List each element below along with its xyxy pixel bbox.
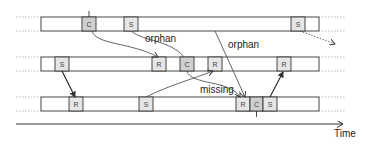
time-axis: Time <box>16 124 356 139</box>
svg-text:C: C <box>254 101 259 108</box>
send-box: S <box>55 57 69 71</box>
checkpoint-box: C <box>250 97 263 111</box>
receive-box: R <box>236 97 250 111</box>
receive-box: R <box>152 57 166 71</box>
svg-text:R: R <box>281 61 286 68</box>
orphan-label-1: orphan <box>145 33 176 44</box>
send-box: S <box>263 97 277 111</box>
svg-text:R: R <box>73 101 78 108</box>
svg-text:C: C <box>184 61 189 68</box>
svg-text:C: C <box>86 21 91 28</box>
checkpoint-box: C <box>82 17 96 31</box>
svg-text:S: S <box>144 101 149 108</box>
checkpoint-diagram: C S S S R C R R <box>0 0 369 144</box>
process-row-3: R S R C S <box>41 97 319 117</box>
missing-label: missing <box>200 84 234 95</box>
process-row-1: C S S <box>41 11 319 31</box>
checkpoint-box: C <box>180 57 194 71</box>
svg-text:R: R <box>240 101 245 108</box>
svg-text:S: S <box>268 101 273 108</box>
svg-text:S: S <box>60 61 65 68</box>
svg-text:S: S <box>296 21 301 28</box>
svg-text:R: R <box>156 61 161 68</box>
send-box: S <box>139 97 153 111</box>
receive-box: R <box>277 57 291 71</box>
svg-text:S: S <box>129 21 134 28</box>
send-box: S <box>124 17 138 31</box>
orphan-label-2: orphan <box>228 39 259 50</box>
receive-box: R <box>69 97 83 111</box>
receive-box: R <box>208 57 222 71</box>
send-box: S <box>291 17 305 31</box>
svg-text:R: R <box>212 61 217 68</box>
process-row-2: S R C R R <box>41 57 319 71</box>
time-axis-label: Time <box>334 128 356 139</box>
